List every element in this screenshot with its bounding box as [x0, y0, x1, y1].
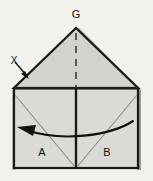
- origami-diagram: G A B X: [0, 0, 153, 181]
- panel-a-label: A: [38, 146, 46, 158]
- apex-label: G: [72, 8, 81, 20]
- diagram-canvas: G A B X: [0, 0, 153, 181]
- fold-marker-label: X: [11, 55, 18, 66]
- panel-b-label: B: [103, 146, 110, 158]
